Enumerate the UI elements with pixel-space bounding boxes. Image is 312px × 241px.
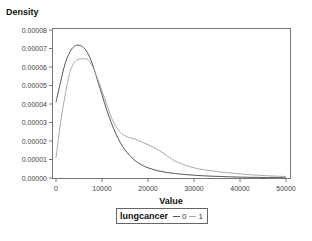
legend-line-icon (173, 216, 180, 217)
x-tick-label: 40000 (230, 185, 250, 192)
series-lines (56, 45, 286, 178)
x-axis-title: Value (159, 196, 183, 206)
plot-frame (53, 29, 291, 179)
density-plot: Density 0.000000.000010.000020.000030.00… (0, 0, 312, 241)
legend-item-1: 1 (187, 212, 202, 221)
legend-title: lungcancer (120, 211, 168, 221)
y-tick-label: 0.00008 (22, 27, 47, 34)
x-tick-label: 20000 (138, 185, 158, 192)
y-tick-label: 0.00007 (22, 45, 47, 52)
y-tick-label: 0.00006 (22, 64, 47, 71)
legend: lungcancer 0 1 (116, 208, 208, 224)
x-axis: 01000020000300004000050000 (54, 179, 296, 193)
legend-label: 0 (182, 212, 186, 221)
y-axis-title: Density (6, 7, 39, 17)
x-tick-label: 10000 (92, 185, 112, 192)
series-line-1 (56, 59, 286, 177)
y-tick-label: 0.00001 (22, 156, 47, 163)
x-tick-label: 30000 (184, 185, 204, 192)
y-tick-label: 0.00002 (22, 138, 47, 145)
legend-label: 1 (198, 212, 202, 221)
x-tick-label: 0 (54, 185, 58, 192)
legend-line-icon (189, 216, 196, 217)
y-tick-label: 0.00000 (22, 175, 47, 182)
y-tick-label: 0.00005 (22, 82, 47, 89)
y-tick-label: 0.00004 (22, 101, 47, 108)
series-line-0 (56, 45, 286, 178)
y-axis: 0.000000.000010.000020.000030.000040.000… (22, 27, 53, 182)
y-tick-label: 0.00003 (22, 119, 47, 126)
x-tick-label: 50000 (276, 185, 296, 192)
legend-item-0: 0 (171, 212, 186, 221)
